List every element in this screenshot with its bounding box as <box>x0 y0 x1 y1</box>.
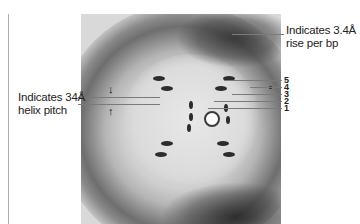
leader-line-2 <box>214 101 282 102</box>
label-helix-pitch-line1: Indicates 34Å <box>18 91 85 104</box>
leader-line-rise <box>232 34 284 35</box>
arrow-up-icon: ↑ <box>108 106 114 117</box>
label-rise-line2: rise per bp <box>286 37 338 50</box>
reflection-spot <box>187 124 191 132</box>
reflection-spot <box>161 141 173 146</box>
reflection-spot <box>223 152 235 157</box>
left-margin-rule <box>8 14 9 224</box>
reflection-spot <box>161 86 173 91</box>
reflection-spot <box>215 86 227 91</box>
reflection-spot <box>153 76 165 81</box>
leader-line-5 <box>224 80 282 81</box>
reflection-spot <box>189 101 193 109</box>
leader-line-1 <box>208 108 282 109</box>
leader-line-4 <box>250 87 282 88</box>
arrow-down-icon: ↓ <box>108 84 114 95</box>
diffraction-photo <box>81 14 281 224</box>
leader-line-pitch-bottom <box>78 104 160 105</box>
layer-line-number: 1 <box>284 105 289 112</box>
reflection-spot <box>226 116 230 124</box>
leader-line-3 <box>232 94 282 95</box>
reflection-spot <box>217 141 229 146</box>
reflection-spot <box>189 113 193 121</box>
beam-stop-center <box>204 111 220 127</box>
leader-line-pitch-top <box>78 97 160 98</box>
reflection-spot <box>155 152 167 157</box>
label-rise-line1: Indicates 3.4Å <box>286 24 356 37</box>
label-helix-pitch-line2: helix pitch <box>18 104 67 117</box>
